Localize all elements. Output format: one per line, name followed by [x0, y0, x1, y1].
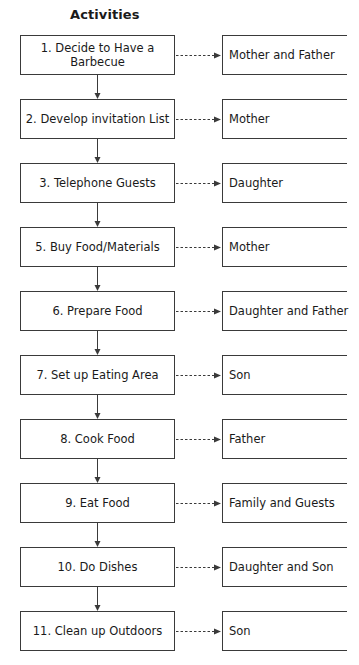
- dashed-arrow-icon: [175, 182, 222, 185]
- assignee-box: Mother and Father: [222, 35, 347, 75]
- dashed-arrow-icon: [175, 630, 222, 633]
- dashed-arrow-icon: [175, 54, 222, 57]
- assignee-label: Daughter and Father: [229, 304, 348, 318]
- activity-box: 3. Telephone Guests: [20, 163, 175, 203]
- dashed-arrow-icon: [175, 502, 222, 505]
- assignee-box: Mother: [222, 227, 347, 267]
- assignee-label: Mother: [229, 112, 270, 126]
- activity-row: 9. Eat FoodFamily and Guests: [0, 483, 359, 523]
- assignee-box: Family and Guests: [222, 483, 347, 523]
- dashed-arrow-icon: [175, 118, 222, 121]
- activity-row: 5. Buy Food/MaterialsMother: [0, 227, 359, 267]
- activity-label: 2. Develop invitation List: [26, 112, 169, 126]
- down-arrow-icon: [92, 331, 103, 356]
- dashed-arrow-icon: [175, 310, 222, 313]
- dashed-arrow-icon: [175, 566, 222, 569]
- dashed-arrow-icon: [175, 438, 222, 441]
- activity-box: 5. Buy Food/Materials: [20, 227, 175, 267]
- activity-box: 8. Cook Food: [20, 419, 175, 459]
- activity-row: 1. Decide to Have a BarbecueMother and F…: [0, 35, 359, 75]
- activity-label: 1. Decide to Have a Barbecue: [25, 41, 170, 69]
- activity-box: 9. Eat Food: [20, 483, 175, 523]
- activity-label: 10. Do Dishes: [58, 560, 138, 574]
- activity-row: 2. Develop invitation ListMother: [0, 99, 359, 139]
- activity-row: 7. Set up Eating AreaSon: [0, 355, 359, 395]
- assignee-box: Daughter: [222, 163, 347, 203]
- assignee-box: Father: [222, 419, 347, 459]
- activity-box: 7. Set up Eating Area: [20, 355, 175, 395]
- assignee-box: Son: [222, 611, 347, 651]
- activity-label: 11. Clean up Outdoors: [33, 624, 162, 638]
- activity-box: 2. Develop invitation List: [20, 99, 175, 139]
- down-arrow-icon: [92, 523, 103, 548]
- activity-row: 8. Cook FoodFather: [0, 419, 359, 459]
- down-arrow-icon: [92, 395, 103, 420]
- down-arrow-icon: [92, 75, 103, 100]
- assignee-box: Son: [222, 355, 347, 395]
- activity-box: 10. Do Dishes: [20, 547, 175, 587]
- activity-row: 11. Clean up OutdoorsSon: [0, 611, 359, 651]
- assignee-label: Daughter: [229, 176, 283, 190]
- dashed-arrow-icon: [175, 246, 222, 249]
- assignee-label: Family and Guests: [229, 496, 335, 510]
- down-arrow-icon: [92, 139, 103, 164]
- down-arrow-icon: [92, 459, 103, 484]
- assignee-box: Daughter and Son: [222, 547, 347, 587]
- assignee-label: Son: [229, 368, 251, 382]
- assignee-label: Son: [229, 624, 251, 638]
- dashed-arrow-icon: [175, 374, 222, 377]
- activity-label: 9. Eat Food: [65, 496, 130, 510]
- activity-label: 8. Cook Food: [60, 432, 135, 446]
- assignee-label: Mother and Father: [229, 48, 335, 62]
- assignee-label: Father: [229, 432, 265, 446]
- activity-row: 3. Telephone GuestsDaughter: [0, 163, 359, 203]
- down-arrow-icon: [92, 203, 103, 228]
- assignee-label: Mother: [229, 240, 270, 254]
- activity-row: 10. Do DishesDaughter and Son: [0, 547, 359, 587]
- activity-box: 1. Decide to Have a Barbecue: [20, 35, 175, 75]
- assignee-box: Mother: [222, 99, 347, 139]
- activity-label: 5. Buy Food/Materials: [35, 240, 159, 254]
- diagram-title: Activities: [70, 7, 140, 22]
- activity-row: 6. Prepare FoodDaughter and Father: [0, 291, 359, 331]
- down-arrow-icon: [92, 587, 103, 612]
- down-arrow-icon: [92, 267, 103, 292]
- assignee-label: Daughter and Son: [229, 560, 334, 574]
- activity-box: 6. Prepare Food: [20, 291, 175, 331]
- activity-label: 7. Set up Eating Area: [36, 368, 158, 382]
- activity-label: 6. Prepare Food: [52, 304, 142, 318]
- assignee-box: Daughter and Father: [222, 291, 347, 331]
- activity-box: 11. Clean up Outdoors: [20, 611, 175, 651]
- activity-label: 3. Telephone Guests: [39, 176, 155, 190]
